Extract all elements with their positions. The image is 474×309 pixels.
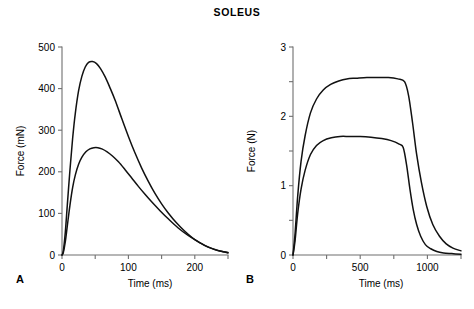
x-tick-label: 1000 [416,262,439,273]
x-tick-label: 0 [59,262,65,273]
x-axis-title: Time (ms) [128,278,173,289]
y-axis-title: Force (N) [246,130,257,172]
panel-a: 01002003004005000100200Time (ms)Force (m… [15,42,228,290]
panel-b: 012305001000Time (ms)Force (N)B [246,42,461,290]
x-tick-label: 500 [352,262,369,273]
curve-lower-tetanus [293,136,461,255]
y-axis-title: Force (mN) [15,126,26,177]
curve-upper-tetanus [293,77,461,255]
y-tick-label: 100 [38,208,55,219]
figure-title: SOLEUS [0,6,474,18]
panel-label-a: A [16,273,24,285]
x-axis-title: Time (ms) [359,278,404,289]
curve-lower-twitch [62,148,228,255]
y-tick-label: 2 [280,111,286,122]
curve-upper-twitch [62,61,228,255]
y-tick-label: 1 [280,180,286,191]
y-tick-label: 200 [38,166,55,177]
y-tick-label: 400 [38,83,55,94]
figure-plot-area: 01002003004005000100200Time (ms)Force (m… [0,0,474,309]
panel-label-b: B [246,273,254,285]
x-tick-label: 0 [290,262,296,273]
y-tick-label: 500 [38,42,55,53]
y-tick-label: 300 [38,125,55,136]
figure-container: SOLEUS 01002003004005000100200Time (ms)F… [0,0,474,309]
y-tick-label: 3 [280,42,286,53]
x-tick-label: 200 [186,262,203,273]
y-tick-label: 0 [49,250,55,261]
y-tick-label: 0 [280,250,286,261]
x-tick-label: 100 [120,262,137,273]
